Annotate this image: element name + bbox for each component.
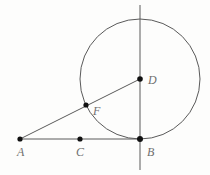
point-label-D: D [148, 74, 157, 86]
point-D-dot [137, 76, 143, 82]
geometry-figure: A C B D F [0, 0, 210, 175]
point-F-dot [83, 102, 88, 107]
point-label-B: B [147, 146, 154, 158]
point-label-F: F [93, 105, 100, 117]
segment-A-D [20, 79, 140, 139]
point-C-dot [77, 136, 82, 141]
geometry-canvas [0, 0, 210, 175]
point-label-C: C [76, 146, 84, 158]
point-label-A: A [17, 146, 24, 158]
point-A-dot [17, 136, 22, 141]
point-B-dot [137, 136, 143, 142]
